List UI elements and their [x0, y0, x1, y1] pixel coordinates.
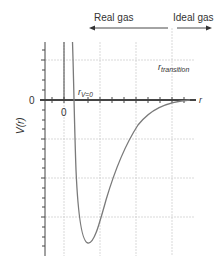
- real-gas-label: Real gas: [94, 12, 133, 23]
- y-axis: [41, 42, 45, 256]
- grid: [45, 28, 195, 256]
- y-zero-label: 0: [29, 95, 35, 106]
- ideal-gas-arrow: [177, 26, 212, 31]
- y-axis-label: V(r): [15, 117, 26, 134]
- potential-energy-chart: Real gas Ideal gas rtransition rV=0 r 0 …: [0, 0, 222, 269]
- ideal-gas-label: Ideal gas: [173, 12, 214, 23]
- x-zero-label: 0: [61, 107, 67, 118]
- r-v0-label: rV=0: [78, 87, 93, 98]
- real-gas-arrow: [89, 26, 168, 31]
- x-axis-label: r: [199, 95, 203, 105]
- r-transition-label: rtransition: [158, 62, 190, 73]
